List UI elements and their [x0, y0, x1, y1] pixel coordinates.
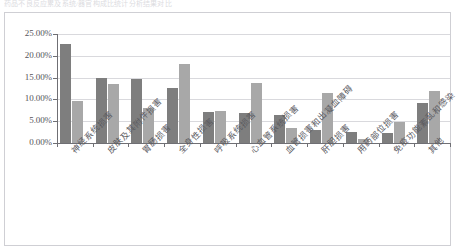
bar-group[interactable]	[167, 13, 203, 144]
y-axis-labels: 25.00%20.00%15.00%10.00%5.00%0.00%	[5, 13, 52, 153]
x-axis-tick	[343, 143, 344, 147]
bar-系列1[interactable]	[60, 44, 71, 143]
x-axis-tick	[57, 143, 58, 147]
top-caption-text: 药品不良反应累及系统/器官构成比统计分析结果对比	[4, 0, 451, 9]
y-axis-tick	[53, 121, 58, 122]
x-axis-tick	[414, 143, 415, 147]
y-axis-tick	[53, 99, 58, 100]
bar-group[interactable]	[60, 13, 96, 144]
chart-frame: 25.00%20.00%15.00%10.00%5.00%0.00% 神经系统损…	[4, 12, 451, 246]
x-axis-tick	[200, 143, 201, 147]
y-axis-tick-label: 5.00%	[6, 116, 52, 125]
x-axis-tick	[93, 143, 94, 147]
y-axis-tick-label: 15.00%	[6, 73, 52, 82]
x-axis-tick	[164, 143, 165, 147]
x-axis-labels: 神经系统损害皮肤及其附件损害胃肠损害全身性损害呼吸系统损害心血管系统损害血管损害…	[5, 144, 452, 249]
x-axis-tick	[236, 143, 237, 147]
x-axis-tick	[450, 143, 451, 147]
x-axis-tick	[307, 143, 308, 147]
bar-系列2[interactable]	[179, 64, 190, 143]
y-axis-tick-label: 25.00%	[6, 29, 52, 38]
x-axis-tick	[379, 143, 380, 147]
y-axis-tick	[53, 34, 58, 35]
x-axis-tick	[128, 143, 129, 147]
y-axis-tick	[53, 78, 58, 79]
bar-系列1[interactable]	[382, 133, 393, 143]
y-axis-tick-label: 10.00%	[6, 94, 52, 103]
x-axis-tick	[271, 143, 272, 147]
bar-group[interactable]	[346, 13, 382, 144]
y-axis-tick-label: 20.00%	[6, 51, 52, 60]
bar-系列1[interactable]	[167, 88, 178, 143]
y-axis-tick	[53, 56, 58, 57]
